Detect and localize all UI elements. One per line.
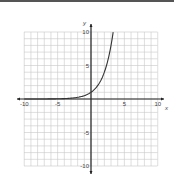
y-axis-up-arrow-icon (90, 24, 93, 27)
y-axis-down-arrow-icon (90, 171, 93, 174)
x-tick-label: 5 (123, 101, 127, 107)
y-axis-label: y (82, 20, 87, 26)
x-tick-label: 10 (154, 101, 161, 107)
x-axis-right-arrow-icon (161, 98, 164, 101)
x-tick-label: -5 (55, 101, 61, 107)
x-axis-label: x (164, 105, 169, 111)
x-tick-label: -10 (20, 101, 29, 107)
y-tick-label: 10 (82, 29, 89, 35)
coordinate-plane: -10-5510105-5-10 x y (0, 0, 174, 189)
y-tick-label: -10 (80, 163, 89, 169)
y-tick-label: -5 (84, 130, 90, 136)
